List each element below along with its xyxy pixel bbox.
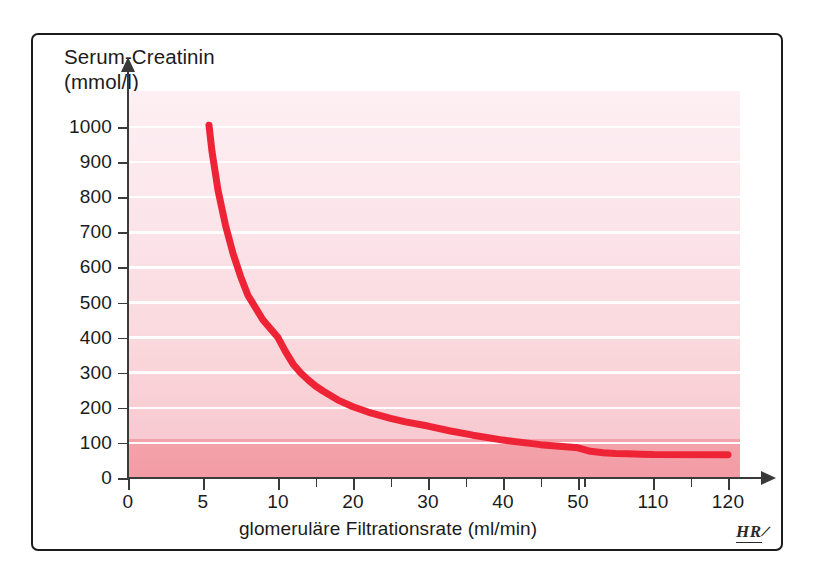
- plot-area: [128, 91, 740, 478]
- y-axis-tick-label: 300: [40, 362, 112, 384]
- y-axis-tick-label: 1000: [40, 116, 112, 138]
- x-axis-minor-tick: [728, 479, 730, 487]
- x-axis-tick-label: 10: [248, 491, 308, 513]
- x-axis-tick: [578, 479, 580, 490]
- signature-text: HR: [736, 522, 762, 543]
- x-axis-tick-label: 40: [473, 491, 533, 513]
- x-axis-tick-label: 30: [398, 491, 458, 513]
- y-axis-arrow-icon: [121, 57, 135, 72]
- x-axis-tick: [428, 479, 430, 490]
- x-axis-tick-label: 20: [323, 491, 383, 513]
- y-axis-tick-label: 0: [40, 467, 112, 489]
- x-axis-tick-label: 110: [623, 491, 683, 513]
- curve-layer: [128, 91, 740, 478]
- x-axis-line: [128, 477, 763, 479]
- author-signature: HR/: [736, 522, 768, 542]
- x-axis-minor-tick: [316, 479, 318, 487]
- y-axis-tick: [118, 232, 129, 234]
- y-axis-tick: [118, 443, 129, 445]
- x-axis-tick: [128, 479, 130, 490]
- x-axis-tick: [353, 479, 355, 490]
- y-axis-tick-label: 500: [40, 292, 112, 314]
- y-axis-title-line1: Serum-Creatinin: [64, 45, 215, 68]
- y-axis-tick: [118, 408, 129, 410]
- y-axis-tick: [118, 373, 129, 375]
- x-axis-tick-label: 120: [698, 491, 758, 513]
- y-axis-tick-label: 900: [40, 151, 112, 173]
- x-axis-tick: [203, 479, 205, 490]
- x-axis-minor-tick: [541, 479, 543, 487]
- y-axis-tick: [118, 267, 129, 269]
- creatinine-curve: [128, 91, 740, 478]
- y-axis-tick: [118, 162, 129, 164]
- y-axis-tick-label: 700: [40, 221, 112, 243]
- x-axis-minor-tick: [391, 479, 393, 487]
- y-axis-title: Serum-Creatinin (mmol/l): [64, 44, 364, 94]
- y-axis-tick: [118, 127, 129, 129]
- y-axis-tick: [118, 338, 129, 340]
- y-axis-line: [127, 70, 129, 480]
- x-axis-tick: [503, 479, 505, 490]
- x-axis-minor-tick: [584, 479, 586, 487]
- x-axis-tick-label: 5: [173, 491, 233, 513]
- x-axis-tick-label: 0: [98, 491, 158, 513]
- x-axis-title: glomeruläre Filtrationsrate (ml/min): [128, 518, 648, 540]
- x-axis-arrow-icon: [761, 471, 776, 485]
- y-axis-tick-label: 400: [40, 327, 112, 349]
- x-axis-tick: [653, 479, 655, 490]
- x-axis-tick-label: 50: [548, 491, 608, 513]
- y-axis-tick-label: 800: [40, 186, 112, 208]
- y-axis-tick-label: 100: [40, 432, 112, 454]
- x-axis-minor-tick: [466, 479, 468, 487]
- y-axis-tick: [118, 303, 129, 305]
- x-axis-minor-tick: [691, 479, 693, 487]
- figure-root: Serum-Creatinin (mmol/l) 010020030040050…: [0, 0, 816, 578]
- y-axis-tick-label: 600: [40, 256, 112, 278]
- x-axis-tick: [278, 479, 280, 490]
- y-axis-tick-label: 200: [40, 397, 112, 419]
- y-axis-tick: [118, 197, 129, 199]
